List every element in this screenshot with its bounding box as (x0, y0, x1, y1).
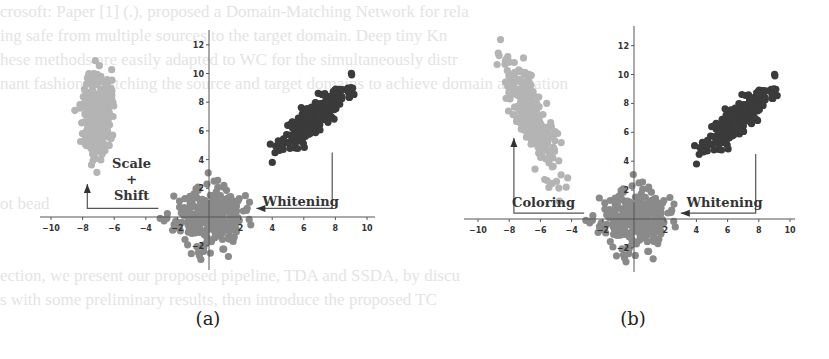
x-tick-label: 2 (238, 224, 244, 233)
y-tick-label: 6 (198, 127, 204, 136)
x-tick-label: 8 (333, 224, 339, 233)
x-tick-label: −2 (171, 224, 183, 233)
x-tick-label: 6 (725, 226, 731, 235)
y-tick-label: 2 (623, 186, 629, 195)
y-tick-label: 2 (198, 184, 204, 193)
arrowhead-icon (510, 138, 517, 147)
x-tick-label: 10 (361, 224, 373, 233)
x-tick-label: 2 (662, 226, 668, 235)
y-tick-label: 8 (198, 98, 204, 107)
x-tick-label: −8 (76, 224, 89, 233)
x-tick-label: −10 (469, 226, 487, 235)
x-tick-label: 8 (756, 226, 762, 235)
series-source-correlated- (267, 70, 358, 166)
x-tick-label: −4 (565, 226, 578, 235)
y-tick-label: 10 (618, 71, 630, 80)
y-tick-label: 4 (623, 157, 629, 166)
x-tick-label: 10 (784, 226, 796, 235)
scatter-panel-a: −10−8−6−4−2246810−224681012WhiteningScal… (0, 0, 415, 300)
caption-b: (b) (620, 308, 646, 329)
annotation-label: Scale (112, 156, 151, 171)
x-tick-label: −4 (140, 224, 153, 233)
y-tick-label: 10 (193, 70, 205, 79)
annotation-label: Shift (114, 188, 149, 203)
y-tick-label: −2 (617, 244, 629, 253)
caption-a: (a) (196, 308, 221, 329)
series-whitened-centered- (582, 171, 679, 266)
series-colored (494, 36, 572, 205)
series-scaled-shifted (71, 57, 117, 176)
x-tick-label: −6 (534, 226, 547, 235)
annotation-label: Coloring (512, 195, 575, 210)
y-tick-label: 12 (193, 41, 204, 50)
x-tick-label: −2 (597, 226, 609, 235)
series-whitened-centered- (157, 169, 255, 263)
y-tick-label: 8 (623, 99, 629, 108)
x-tick-label: −10 (42, 224, 60, 233)
series-source-correlated- (691, 71, 781, 168)
y-tick-label: 12 (618, 42, 629, 51)
x-tick-label: −8 (503, 226, 516, 235)
scatter-plot-a: −10−8−6−4−2246810−224681012WhiteningScal… (0, 0, 415, 300)
scatter-panel-b: −10−8−6−4−2246810−224681012WhiteningColo… (415, 0, 829, 300)
x-tick-label: −6 (108, 224, 121, 233)
x-tick-label: 4 (269, 224, 275, 233)
annotation-label: Whitening (262, 194, 339, 209)
x-tick-label: 4 (694, 226, 700, 235)
y-tick-label: 6 (623, 128, 629, 137)
annotation-label: + (126, 172, 137, 187)
annotation-label: Whitening (685, 195, 762, 210)
x-tick-label: 6 (301, 224, 307, 233)
arrowhead-icon (681, 210, 690, 217)
arrowhead-icon (84, 184, 91, 193)
y-tick-label: −2 (192, 242, 204, 251)
scatter-plot-b: −10−8−6−4−2246810−224681012WhiteningColo… (415, 0, 829, 300)
y-tick-label: 4 (198, 156, 204, 165)
